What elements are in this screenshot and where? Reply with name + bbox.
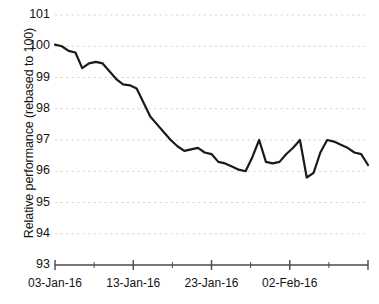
- x-tick-label: 02-Feb-16: [262, 276, 317, 290]
- x-tick-label: 13-Jan-16: [106, 276, 160, 290]
- x-tick-label: 03-Jan-16: [28, 276, 82, 290]
- plot-area: [0, 0, 379, 304]
- x-tick-label: 23-Jan-16: [184, 276, 238, 290]
- x-axis: [55, 260, 368, 270]
- gridlines: [55, 15, 368, 234]
- line-chart: Relative performance (rebased to 100) 10…: [0, 0, 379, 304]
- data-line-series: [55, 45, 368, 178]
